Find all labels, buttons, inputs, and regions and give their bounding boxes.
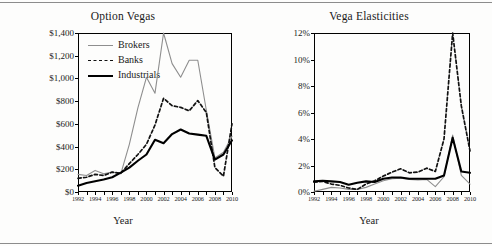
series-line-industrials [78, 130, 232, 186]
series-layer [0, 0, 246, 246]
panel-option-vegas: Option Vegas Total Option Vega (in Thous… [0, 0, 246, 246]
series-line-industrials [314, 138, 470, 185]
figure-container: Option Vegas Total Option Vega (in Thous… [0, 0, 492, 246]
panel-vega-elasticities: Vega Elasticities Median Vega Elasticity… [246, 0, 492, 246]
series-line-brokers [78, 33, 232, 176]
series-line-banks [78, 98, 232, 178]
series-layer [246, 0, 492, 246]
